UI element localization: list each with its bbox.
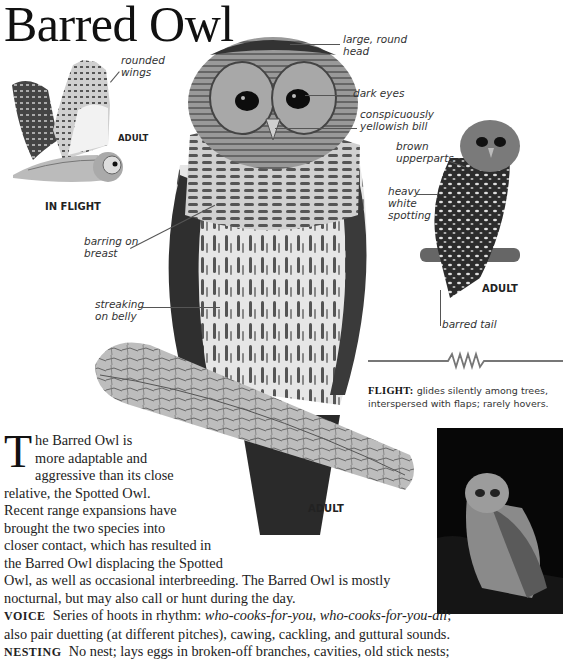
barred-tail-callout: barred tail xyxy=(442,318,497,330)
flight-label: FLIGHT: xyxy=(368,385,414,396)
description-line: closer contact, which has resulted in xyxy=(4,537,504,555)
voice-line-2: also pair duetting (at different pitches… xyxy=(4,626,504,644)
streaking-on-belly-callout: streaking on belly xyxy=(95,298,155,322)
nesting-section: NESTING No nest; lays eggs in broken-off… xyxy=(4,643,504,662)
dark-eyes-callout: dark eyes xyxy=(353,87,404,99)
nesting-text: No nest; lays eggs in broken-off branche… xyxy=(69,643,450,659)
eyes-leader xyxy=(305,95,350,96)
bill-leader xyxy=(275,128,357,129)
nesting-label: NESTING xyxy=(4,645,62,659)
voice-section: VOICE Series of hoots in rhythm: who-coo… xyxy=(4,607,504,626)
description-line: the Barred Owl displacing the Spotted xyxy=(4,555,504,573)
description-line: Owl, as well as occasional interbreeding… xyxy=(4,572,504,590)
species-description: T he Barred Owl is more adaptable and ag… xyxy=(4,432,504,662)
voice-call-2: who-cooks-for-you-all xyxy=(320,607,448,623)
white-spotting-callout: heavy white spotting xyxy=(388,185,428,221)
head-leader xyxy=(290,44,340,45)
barring-on-breast-callout: barring on breast xyxy=(84,235,146,259)
flight-pattern-icon xyxy=(368,350,563,370)
description-line: he Barred Owl is xyxy=(4,432,504,450)
brown-upperparts-callout: brown upperparts xyxy=(396,140,456,164)
voice-end: ; xyxy=(447,607,451,623)
tail-leader xyxy=(440,290,441,326)
voice-label: VOICE xyxy=(4,609,46,623)
belly-leader xyxy=(140,307,220,308)
description-line: relative, the Spotted Owl. xyxy=(4,485,504,503)
large-round-head-callout: large, round head xyxy=(343,33,408,57)
description-line: more adaptable and xyxy=(4,450,504,468)
description-line: aggressive than its close xyxy=(4,467,504,485)
voice-text: Series of hoots in rhythm: xyxy=(53,607,205,623)
voice-separator: , xyxy=(313,607,320,623)
drop-cap: T xyxy=(4,434,32,470)
flight-description: FLIGHT: glides silently among trees, int… xyxy=(368,384,563,410)
back-adult-label: ADULT xyxy=(482,283,518,294)
voice-call-1: who-cooks-for-you xyxy=(205,607,313,623)
description-line: Recent range expansions have xyxy=(4,502,504,520)
description-line: nocturnal, but may also call or hunt dur… xyxy=(4,590,504,608)
description-line: brought the two species into xyxy=(4,520,504,538)
spotting-leader xyxy=(416,194,438,195)
